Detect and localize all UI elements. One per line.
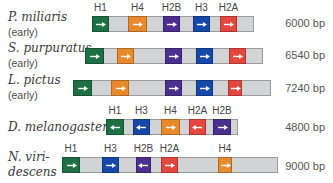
species-name: S. purpuratus xyxy=(8,41,92,56)
gene-h2b xyxy=(213,119,231,135)
gene-label: H2B xyxy=(212,105,231,116)
gene-label: H1 xyxy=(94,2,107,13)
arrow-right-icon xyxy=(95,21,106,28)
gene-h2a xyxy=(161,157,178,173)
gene-label: H2A xyxy=(188,105,207,116)
gene-h4 xyxy=(128,16,147,32)
gene-label: H2B xyxy=(134,143,153,154)
gene-label: H3 xyxy=(135,105,148,116)
gene-cluster-bar xyxy=(85,48,263,64)
gene-label: H1 xyxy=(109,105,122,116)
gene-h2b xyxy=(163,16,180,32)
gene-cluster-bar xyxy=(62,157,278,173)
gene-h2b xyxy=(165,80,182,96)
gene-label: H2A xyxy=(160,143,179,154)
arrow-right-icon xyxy=(230,85,241,92)
gene-h3 xyxy=(133,119,150,135)
species-sub: (early) xyxy=(8,56,92,71)
gene-h2a xyxy=(189,119,206,135)
gene-label: H2B xyxy=(162,2,181,13)
gene-h3 xyxy=(102,157,119,173)
species-sub: (early) xyxy=(8,88,61,103)
gene-cluster-bar xyxy=(73,80,271,96)
gene-label: H3 xyxy=(104,143,117,154)
gene-h4 xyxy=(218,157,232,173)
gene-h1 xyxy=(85,48,104,64)
species-label-s-purpuratus: S. purpuratus (early) xyxy=(8,41,92,71)
gene-label: H3 xyxy=(195,2,208,13)
arrow-right-icon xyxy=(168,85,179,92)
gene-h1 xyxy=(92,16,109,32)
arrow-right-icon xyxy=(115,85,126,92)
cluster-size: 6540 bp xyxy=(285,49,325,61)
cluster-size: 7240 bp xyxy=(285,82,325,94)
gene-h3 xyxy=(193,16,210,32)
gene-h4 xyxy=(117,48,134,64)
arrow-right-icon xyxy=(232,53,243,60)
gene-h4 xyxy=(161,119,180,135)
species-label-p-miliaris: P. miliaris (early) xyxy=(8,10,67,40)
species-label-l-pictus: L. pictus (early) xyxy=(8,73,61,103)
gene-h2b xyxy=(136,157,151,173)
gene-h1 xyxy=(73,80,92,96)
arrow-left-icon xyxy=(110,124,121,131)
species-name: P. miliaris xyxy=(8,10,67,25)
gene-h1 xyxy=(106,119,124,135)
species-name: N. viri- xyxy=(8,150,57,165)
species-sub: (early) xyxy=(8,25,67,40)
species-name: L. pictus xyxy=(8,73,61,88)
arrow-right-icon xyxy=(165,124,176,131)
arrow-left-icon xyxy=(136,124,147,131)
arrow-right-icon xyxy=(217,124,228,131)
cluster-size: 6000 bp xyxy=(285,17,325,29)
arrow-right-icon xyxy=(199,53,210,60)
gene-h2a xyxy=(228,80,242,96)
arrow-right-icon xyxy=(132,21,143,28)
gene-label: H4 xyxy=(164,105,177,116)
arrow-left-icon xyxy=(192,124,203,131)
arrow-right-icon xyxy=(105,162,116,169)
species-label-d-melanogaster: D. melanogaster xyxy=(8,120,108,135)
gene-label: H1 xyxy=(65,143,78,154)
gene-h2b xyxy=(165,48,182,64)
arrow-right-icon xyxy=(164,162,175,169)
gene-h1 xyxy=(62,157,80,173)
arrow-right-icon xyxy=(220,162,231,169)
gene-cluster-bar xyxy=(92,16,254,32)
arrow-right-icon xyxy=(89,53,100,60)
gene-h2a xyxy=(220,16,237,32)
cluster-size: 9000 bp xyxy=(285,160,325,172)
species-name: D. melanogaster xyxy=(8,120,108,135)
arrow-right-icon xyxy=(199,85,210,92)
gene-h3 xyxy=(196,80,213,96)
arrow-right-icon xyxy=(223,21,234,28)
cluster-size: 4800 bp xyxy=(285,121,325,133)
arrow-right-icon xyxy=(166,21,177,28)
arrow-right-icon xyxy=(168,53,179,60)
species-name-cont: descens xyxy=(8,165,57,180)
species-label-n-viridescens: N. viri- descens xyxy=(8,150,57,180)
arrow-right-icon xyxy=(77,85,88,92)
gene-label: H2A xyxy=(219,2,238,13)
arrow-right-icon xyxy=(120,53,131,60)
gene-label: H4 xyxy=(131,2,144,13)
gene-h2a xyxy=(229,48,246,64)
gene-h4 xyxy=(111,80,129,96)
gene-cluster-bar xyxy=(106,119,238,135)
arrow-right-icon xyxy=(196,21,207,28)
gene-label: H4 xyxy=(219,143,232,154)
arrow-right-icon xyxy=(66,162,77,169)
gene-h3 xyxy=(196,48,213,64)
arrow-left-icon xyxy=(138,162,149,169)
